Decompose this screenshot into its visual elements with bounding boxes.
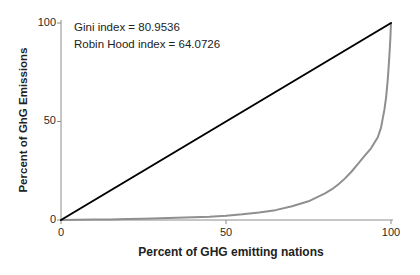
gini-index-annotation: Gini index = 80.9536 (74, 20, 180, 34)
x-tick-label-0: 0 (41, 226, 81, 239)
line-of-equality (61, 23, 391, 220)
lorenz-curve-chart: 100 50 0 0 50 100 Gini index = 80.9536 R… (0, 0, 420, 275)
robin-hood-index-annotation: Robin Hood index = 64.0726 (74, 37, 220, 51)
x-tick-label-50: 50 (206, 226, 246, 239)
y-axis-title: Percent of GhG Emissions (17, 20, 31, 220)
x-tick-label-100: 100 (371, 226, 411, 239)
x-axis-title: Percent of GHG emitting nations (81, 245, 381, 259)
